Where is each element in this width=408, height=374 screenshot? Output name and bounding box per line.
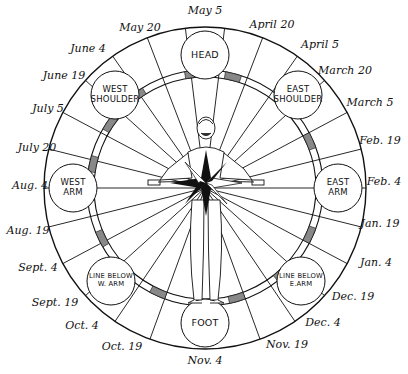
date-label: June 4 bbox=[70, 42, 106, 55]
date-label: Aug. 4 bbox=[12, 179, 48, 192]
body-part-label: WEST SHOULDER bbox=[91, 85, 140, 105]
date-label: March 5 bbox=[347, 96, 394, 109]
body-part-label: LINE BELOW E.ARM bbox=[279, 273, 323, 289]
body-part-label: EAST ARM bbox=[327, 178, 350, 198]
hatched-segment bbox=[88, 155, 98, 172]
date-label: May 20 bbox=[119, 21, 161, 34]
date-label: June 19 bbox=[43, 69, 86, 82]
date-label: March 20 bbox=[318, 64, 372, 77]
hatched-segment bbox=[224, 72, 241, 83]
date-label: July 20 bbox=[18, 141, 57, 154]
body-part-label: FOOT bbox=[191, 318, 218, 329]
date-label: Dec. 19 bbox=[332, 290, 374, 303]
date-label: May 5 bbox=[188, 4, 223, 17]
body-part-label: HEAD bbox=[191, 50, 219, 61]
body-part-label: WEST ARM bbox=[60, 178, 85, 198]
date-label: Nov. 19 bbox=[266, 338, 308, 351]
date-label: Dec. 4 bbox=[305, 316, 340, 329]
hatched-segment bbox=[96, 230, 109, 247]
date-label: Feb. 19 bbox=[359, 134, 401, 147]
date-label: Jan. 4 bbox=[360, 256, 392, 269]
body-part-label: EAST SHOULDER bbox=[274, 85, 323, 105]
date-label: April 20 bbox=[250, 18, 295, 31]
date-label: Sept. 4 bbox=[18, 261, 58, 274]
date-label: Oct. 4 bbox=[65, 319, 99, 332]
date-label: April 5 bbox=[301, 38, 339, 51]
date-label: Feb. 4 bbox=[367, 175, 402, 188]
date-label: Aug. 19 bbox=[6, 224, 49, 237]
date-label: Jan. 19 bbox=[360, 217, 399, 230]
date-label: Sept. 19 bbox=[32, 296, 79, 309]
date-label: Oct. 19 bbox=[102, 340, 143, 353]
date-label: Nov. 4 bbox=[187, 354, 222, 367]
date-label: July 5 bbox=[32, 102, 64, 115]
body-part-label: LINE BELOW W. ARM bbox=[89, 273, 133, 289]
